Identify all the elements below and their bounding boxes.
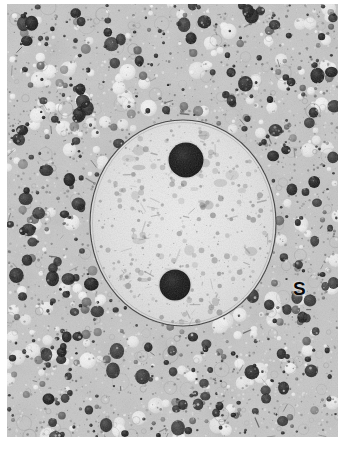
micrograph-figure: S [0, 0, 350, 451]
global-tone [7, 4, 338, 437]
micrograph-canvas [7, 4, 338, 437]
micrograph-image [7, 4, 338, 437]
